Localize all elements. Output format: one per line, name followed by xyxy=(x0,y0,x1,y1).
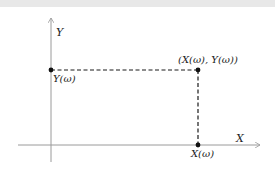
pair-point-label: (X(ω), Y(ω)) xyxy=(178,55,238,65)
coordinate-diagram xyxy=(0,0,275,169)
y-axis-label: Y xyxy=(56,27,63,38)
x-projection-point xyxy=(196,143,201,148)
pair-point xyxy=(196,68,201,73)
y-projection-point xyxy=(49,68,54,73)
x-axis-label: X xyxy=(236,133,244,144)
x-projection-label: X(ω) xyxy=(191,149,214,159)
y-projection-label: Y(ω) xyxy=(53,74,76,84)
